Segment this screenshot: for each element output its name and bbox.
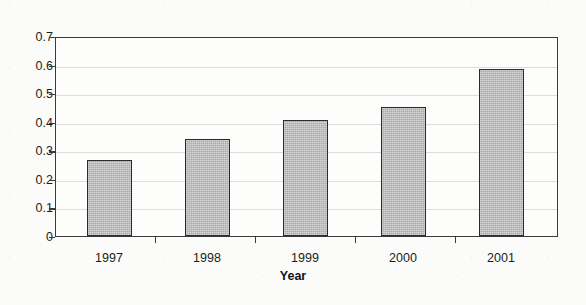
y-axis-tick-label-0.6: 0.6 — [7, 60, 53, 73]
x-axis-tick-label-2000: 2000 — [358, 252, 448, 265]
y-axis-tick-label-0.1: 0.1 — [7, 202, 53, 215]
bar-1997[interactable] — [87, 160, 132, 236]
bar-1999[interactable] — [283, 120, 328, 236]
x-axis-tick-label-1999: 1999 — [260, 252, 350, 265]
y-axis-tick-label-0.7: 0.7 — [7, 31, 53, 44]
bar-1998[interactable] — [185, 139, 230, 236]
bar-chart-figure: 0.7 0.6 0.5 0.4 0.3 0.2 0.1 0 1997 1998 … — [0, 0, 586, 305]
y-axis-tick-label-0: 0 — [7, 231, 53, 244]
y-axis-tick-mark-0 — [49, 237, 55, 238]
gridline-0.6 — [56, 67, 557, 68]
x-axis-tick-mark-3 — [355, 237, 356, 243]
bar-2000[interactable] — [381, 107, 426, 236]
x-axis-tick-mark-1 — [155, 237, 156, 243]
x-axis-tick-label-2001: 2001 — [456, 252, 546, 265]
x-axis-tick-mark-2 — [255, 237, 256, 243]
x-axis-tick-label-1997: 1997 — [64, 252, 154, 265]
y-axis-tick-label-0.3: 0.3 — [7, 145, 53, 158]
x-axis-tick-mark-4 — [455, 237, 456, 243]
x-axis-tick-label-1998: 1998 — [162, 252, 252, 265]
y-axis-tick-label-0.2: 0.2 — [7, 174, 53, 187]
plot-area — [55, 37, 558, 237]
bar-2001[interactable] — [479, 69, 524, 236]
y-axis-tick-label-0.4: 0.4 — [7, 117, 53, 130]
x-axis-title: Year — [0, 270, 586, 283]
y-axis-tick-label-0.5: 0.5 — [7, 88, 53, 101]
